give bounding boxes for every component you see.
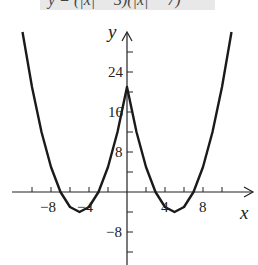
- chart: −8 −4 4 8 24 16 8 −8 x y: [0, 0, 258, 265]
- x-axis: [12, 187, 253, 197]
- y-axis: [122, 32, 133, 265]
- x-tick-label-neg8: −8: [40, 199, 56, 215]
- y-tick-label-neg8: −8: [106, 224, 122, 240]
- y-tick-label-8: 8: [115, 144, 123, 160]
- x-axis-label: x: [239, 202, 249, 223]
- y-tick-label-16: 16: [108, 104, 124, 120]
- x-tick-label-neg4: −4: [77, 199, 93, 215]
- x-tick-label-4: 4: [161, 199, 169, 215]
- y-axis-label: y: [106, 21, 117, 42]
- x-tick-label-8: 8: [199, 199, 207, 215]
- y-tick-label-24: 24: [108, 64, 124, 80]
